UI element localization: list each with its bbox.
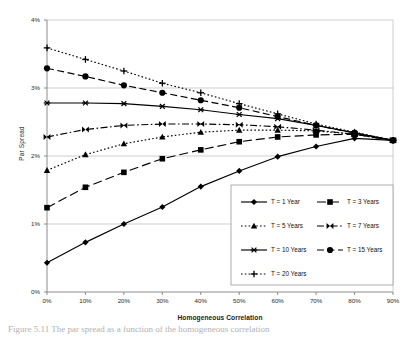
square-marker xyxy=(83,184,89,190)
diamond-marker xyxy=(121,221,127,227)
data-series xyxy=(44,127,396,173)
legend-item-label[interactable]: T = 3 Years xyxy=(347,198,379,205)
bowtie-marker xyxy=(236,122,243,128)
x-tick-label: 50% xyxy=(224,297,254,304)
x-tick-label: 30% xyxy=(147,297,177,304)
y-tick-label: 2% xyxy=(20,152,40,159)
diamond-marker xyxy=(159,204,165,210)
x-tick-label: 60% xyxy=(263,297,293,304)
plus-marker xyxy=(197,89,204,96)
figure-caption: Figure 5.11 The par spread as a function… xyxy=(8,324,413,334)
asterisk-marker xyxy=(197,107,204,112)
y-tick-label: 0% xyxy=(20,288,40,295)
y-tick-label: 1% xyxy=(20,220,40,227)
bowtie-marker xyxy=(159,121,166,127)
plus-marker xyxy=(44,45,51,52)
triangle-marker xyxy=(198,129,204,135)
y-tick-label: 4% xyxy=(20,16,40,23)
triangle-marker xyxy=(82,151,88,157)
series-line xyxy=(47,48,393,140)
circle-marker xyxy=(121,82,127,88)
legend-item-label[interactable]: T = 1 Year xyxy=(271,198,300,205)
diamond-marker xyxy=(82,239,88,245)
circle-marker xyxy=(159,90,165,96)
legend-item-label[interactable]: T = 10 Years xyxy=(271,246,306,253)
x-tick-label: 20% xyxy=(109,297,139,304)
legend-item-label[interactable]: T = 20 Years xyxy=(271,270,306,277)
diamond-marker xyxy=(44,260,50,266)
figure-container: Par Spread Homogeneous Correlation 0%1%2… xyxy=(0,0,419,337)
square-marker xyxy=(327,199,333,205)
asterisk-marker xyxy=(236,112,243,117)
circle-marker xyxy=(327,247,333,253)
data-series xyxy=(44,65,396,143)
plus-marker xyxy=(159,80,166,87)
x-tick-label: 40% xyxy=(186,297,216,304)
y-axis-title: Par Spread xyxy=(18,104,25,184)
x-axis-title: Homogeneous Correlation xyxy=(47,314,393,321)
x-tick-label: 0% xyxy=(32,297,62,304)
chart-plot-area: Par Spread Homogeneous Correlation 0%1%2… xyxy=(0,0,419,337)
legend-item-label[interactable]: T = 5 Years xyxy=(271,222,303,229)
series-line xyxy=(47,130,393,170)
legend-item-label[interactable]: T = 15 Years xyxy=(347,246,382,253)
data-series xyxy=(44,101,397,143)
plus-marker xyxy=(82,56,89,63)
triangle-marker xyxy=(236,127,242,133)
diamond-marker xyxy=(275,154,281,160)
y-tick-label: 3% xyxy=(20,84,40,91)
diamond-marker xyxy=(236,168,242,174)
x-tick-label: 90% xyxy=(378,297,408,304)
line-chart-svg xyxy=(0,0,419,337)
asterisk-marker xyxy=(159,104,166,109)
square-marker xyxy=(236,139,242,145)
asterisk-marker xyxy=(82,101,89,106)
x-tick-label: 70% xyxy=(301,297,331,304)
diamond-marker xyxy=(313,143,319,149)
triangle-marker xyxy=(44,167,50,173)
x-tick-label: 80% xyxy=(340,297,370,304)
legend-item-label[interactable]: T = 7 Years xyxy=(347,222,379,229)
series-line xyxy=(47,124,393,140)
square-marker xyxy=(275,134,281,140)
x-tick-label: 10% xyxy=(70,297,100,304)
plus-marker xyxy=(121,68,128,75)
circle-marker xyxy=(44,65,50,71)
bowtie-marker xyxy=(197,121,204,127)
square-marker xyxy=(198,147,204,153)
square-marker xyxy=(160,156,166,162)
circle-marker xyxy=(82,73,88,79)
circle-marker xyxy=(198,97,204,103)
data-series xyxy=(44,121,397,143)
asterisk-marker xyxy=(121,101,128,106)
diamond-marker xyxy=(198,184,204,190)
bowtie-marker xyxy=(82,126,89,132)
square-marker xyxy=(121,170,127,176)
square-marker xyxy=(44,205,50,211)
